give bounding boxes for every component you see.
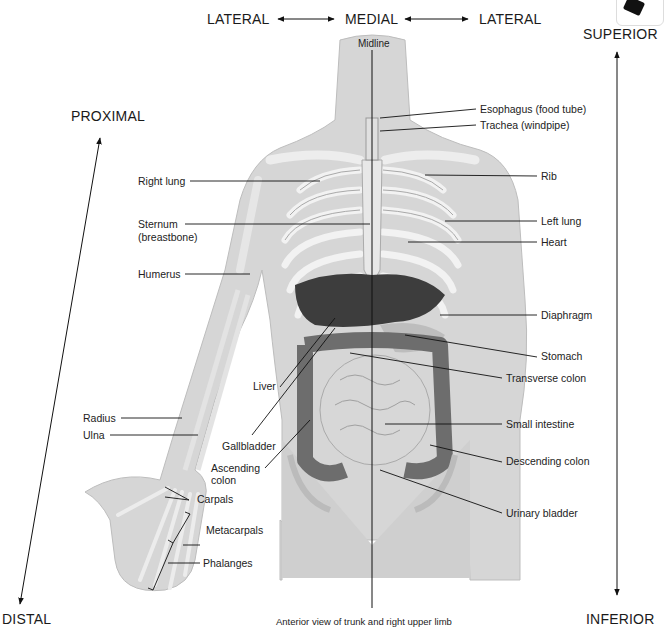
label-trachea: Trachea (windpipe) (480, 119, 570, 132)
label-metacarpals: Metacarpals (206, 524, 263, 537)
label-left-lung: Left lung (541, 215, 581, 228)
label-sternum-sub: (breastbone) (138, 231, 198, 244)
label-esophagus: Esophagus (food tube) (480, 103, 586, 116)
proximal-distal-arrow (20, 138, 100, 604)
label-descending-colon: Descending colon (506, 455, 589, 468)
label-ascending-colon: colon (211, 474, 236, 487)
figure-caption: Anterior view of trunk and right upper l… (276, 616, 452, 627)
midline-label: Midline (358, 37, 390, 50)
corner-badge-icon (616, 0, 664, 26)
label-radius: Radius (83, 412, 116, 425)
lateral-right-label: LATERAL (479, 11, 542, 27)
small-intestine-shape (320, 355, 430, 465)
label-heart: Heart (541, 236, 567, 249)
right-clavicle (270, 155, 360, 160)
label-phalanges: Phalanges (203, 557, 253, 570)
label-right-lung: Right lung (138, 175, 185, 188)
label-gallbladder: Gallbladder (222, 440, 276, 453)
label-stomach: Stomach (541, 350, 582, 363)
label-transverse-colon: Transverse colon (506, 372, 586, 385)
lateral-left-label: LATERAL (207, 11, 270, 27)
medial-label: MEDIAL (345, 11, 398, 27)
label-small-intestine: Small intestine (506, 418, 574, 431)
label-sternum: Sternum (138, 218, 178, 231)
label-diaphragm: Diaphragm (541, 309, 592, 322)
label-urinary-bladder: Urinary bladder (506, 507, 578, 520)
distal-label: DISTAL (2, 611, 51, 627)
superior-label: SUPERIOR (583, 26, 658, 42)
inferior-label: INFERIOR (586, 611, 655, 627)
left-clavicle (385, 155, 475, 160)
label-humerus: Humerus (138, 268, 181, 281)
label-carpals: Carpals (197, 493, 233, 506)
label-ulna: Ulna (83, 429, 105, 442)
label-liver: Liver (253, 380, 276, 393)
label-rib: Rib (541, 170, 557, 183)
proximal-label: PROXIMAL (71, 108, 145, 124)
